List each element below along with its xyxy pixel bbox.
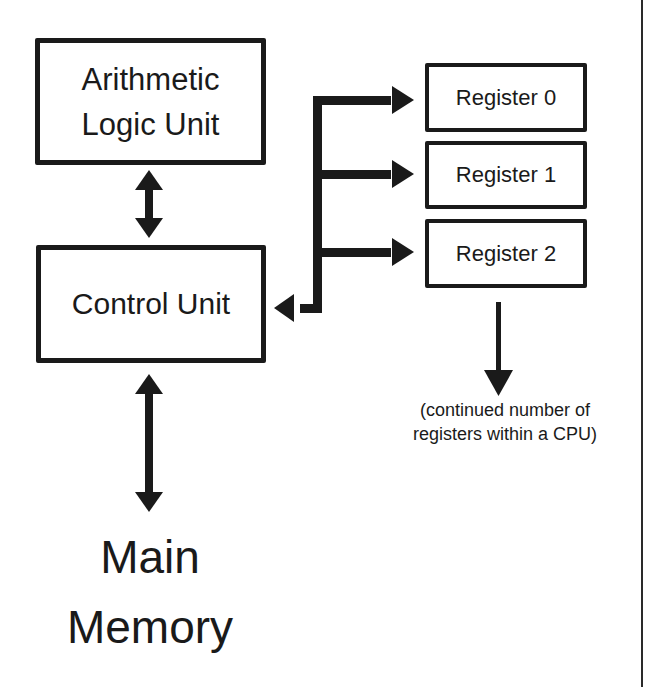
register-bus-icon [274,86,414,322]
registers-note-line1: (continued number of [390,398,620,422]
alu-cu-double-arrow-icon [135,170,163,238]
right-border-line [641,0,643,687]
registers-note-line2: registers within a CPU) [390,422,620,446]
main-memory-label: Main Memory [20,522,280,662]
main-memory-line1: Main [20,522,280,592]
continued-registers-down-arrow-icon [484,302,513,396]
cu-memory-double-arrow-icon [135,374,163,512]
main-memory-line2: Memory [20,592,280,662]
registers-note: (continued number of registers within a … [390,398,620,446]
